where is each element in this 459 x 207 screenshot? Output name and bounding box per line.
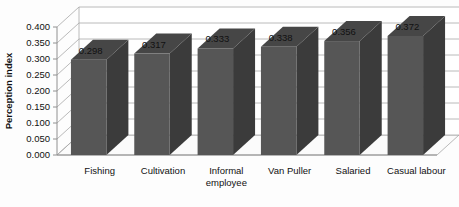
bar-front-face-5[interactable] [388, 36, 423, 155]
x-category-label-2: Informal [209, 165, 243, 176]
y-tick-label-0.100: 0.100 [26, 117, 50, 128]
bar-front-face-2[interactable] [198, 48, 233, 155]
y-tick-label-0.050: 0.050 [26, 133, 50, 144]
bar-value-label-1: 0.317 [142, 39, 166, 50]
bar-side-face-4 [360, 21, 382, 155]
depth-line-0.400 [57, 7, 79, 27]
bar-front-face-1[interactable] [134, 54, 169, 155]
bar-front-face-3[interactable] [261, 47, 296, 155]
depth-line-0.350 [57, 23, 79, 43]
y-axis-title: Perception index [3, 52, 14, 129]
x-category-label-5: Casual labour [387, 165, 446, 176]
y-tick-label-0.200: 0.200 [26, 85, 50, 96]
bar-side-face-3 [296, 27, 318, 155]
bar-side-face-0 [106, 40, 128, 155]
bar-side-face-2 [233, 28, 255, 155]
y-tick-label-0.000: 0.000 [26, 149, 50, 160]
bar-front-face-4[interactable] [324, 41, 359, 155]
bar-value-label-4: 0.356 [332, 26, 356, 37]
y-tick-label-0.350: 0.350 [26, 37, 50, 48]
bar-value-label-2: 0.333 [205, 33, 229, 44]
y-tick-label-0.300: 0.300 [26, 53, 50, 64]
bar-group-3 [261, 27, 318, 155]
bar-group-0 [71, 40, 128, 155]
perception-index-bar-chart: 0.0000.0500.1000.1500.2000.2500.3000.350… [0, 0, 459, 207]
bar-group-4 [324, 21, 381, 155]
chart-canvas: 0.0000.0500.1000.1500.2000.2500.3000.350… [0, 0, 459, 207]
bar-group-2 [198, 28, 255, 155]
y-tick-label-0.250: 0.250 [26, 69, 50, 80]
x-category-label-2: employee [206, 177, 247, 188]
y-tick-label-0.150: 0.150 [26, 101, 50, 112]
x-category-label-4: Salaried [336, 165, 371, 176]
bar-value-label-3: 0.338 [269, 32, 293, 43]
bar-side-face-5 [423, 16, 445, 155]
x-category-label-3: Van Puller [268, 165, 311, 176]
bar-value-label-0: 0.298 [79, 45, 103, 56]
bar-group-5 [388, 16, 445, 155]
bar-front-face-0[interactable] [71, 60, 106, 155]
bar-side-face-1 [170, 34, 192, 155]
x-category-label-1: Cultivation [141, 165, 185, 176]
bar-value-label-5: 0.372 [395, 21, 419, 32]
x-category-label-0: Fishing [84, 165, 115, 176]
bar-group-1 [134, 34, 191, 155]
y-tick-label-0.400: 0.400 [26, 21, 50, 32]
